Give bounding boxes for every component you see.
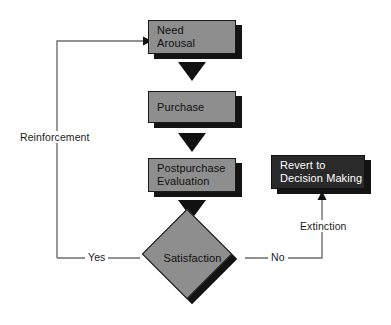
edge-label-yes: Yes xyxy=(85,251,108,263)
purchase-label-line1: Purchase xyxy=(157,101,235,114)
revert-label-line1: Revert to xyxy=(280,159,364,172)
edge-label-extinction: Extinction xyxy=(297,220,350,232)
edge-reinforcement-loop xyxy=(57,41,143,258)
revert-label-line2: Decision Making xyxy=(280,172,364,185)
arrow-need-to-purchase xyxy=(178,62,206,81)
satisfaction-label: Satisfaction xyxy=(140,252,245,264)
need-arousal-label-line1: Need xyxy=(157,24,235,37)
postpurchase-label-line1: Postpurchase xyxy=(157,162,235,175)
node-need-arousal[interactable]: Need Arousal xyxy=(148,20,236,54)
node-revert-to-decision-making[interactable]: Revert to Decision Making xyxy=(271,155,365,189)
edge-label-reinforcement: Reinforcement xyxy=(17,131,93,143)
flowchart-canvas: Need Arousal Purchase Postpurchase Evalu… xyxy=(0,0,391,325)
node-postpurchase-evaluation[interactable]: Postpurchase Evaluation xyxy=(148,158,236,192)
node-purchase[interactable]: Purchase xyxy=(148,91,236,123)
postpurchase-label-line2: Evaluation xyxy=(157,175,235,188)
edge-label-no: No xyxy=(268,251,288,263)
need-arousal-label-line2: Arousal xyxy=(157,37,235,50)
arrow-purchase-to-postpurchase xyxy=(178,133,206,152)
